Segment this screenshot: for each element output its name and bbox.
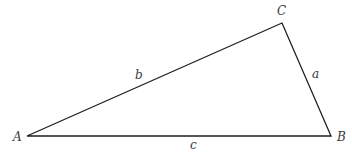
vertex-label-c: C: [277, 4, 286, 18]
vertex-label-a: A: [12, 130, 22, 144]
triangle-abc: [27, 23, 331, 136]
side-label-c: c: [190, 138, 197, 152]
side-label-b: b: [135, 68, 143, 82]
vertex-label-b: B: [336, 130, 346, 144]
triangle-diagram: A B C a b c: [0, 0, 352, 159]
side-label-a: a: [312, 67, 319, 81]
